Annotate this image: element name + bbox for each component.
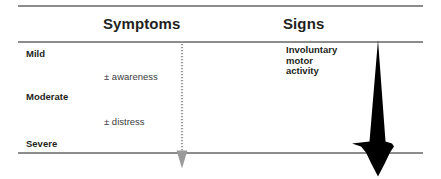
severity-diagram: Symptoms Signs Mild Moderate Severe ± aw… bbox=[0, 0, 441, 179]
solid-down-arrow bbox=[352, 40, 394, 177]
arrow-layer bbox=[0, 0, 441, 179]
dotted-down-arrow bbox=[177, 41, 188, 169]
solid-arrow-body bbox=[352, 40, 394, 177]
dotted-arrow-head bbox=[177, 151, 188, 169]
